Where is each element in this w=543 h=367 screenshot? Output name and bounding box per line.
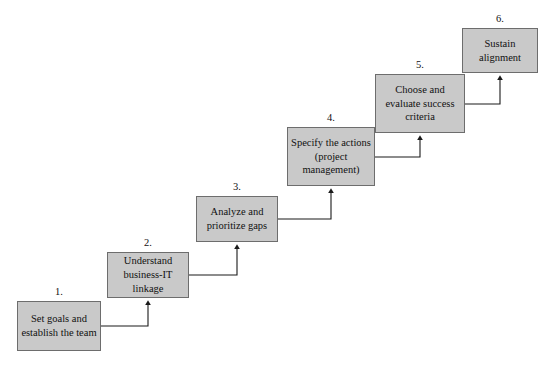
step-box-6[interactable]: Sustain alignment [462,28,538,73]
step-box-3[interactable]: Analyze and prioritize gaps [196,196,278,242]
step-number-5: 5. [375,60,465,71]
flowchart-canvas: 1. Set goals and establish the team 2. U… [0,0,543,367]
step-box-1[interactable]: Set goals and establish the team [17,301,101,351]
connector-2-to-3 [189,247,237,275]
step-number-3: 3. [196,182,278,193]
connector-1-to-2 [101,303,148,326]
connector-4-to-5 [375,138,420,157]
step-number-6: 6. [462,14,538,25]
step-number-1: 1. [17,287,101,298]
step-box-5[interactable]: Choose and evaluate success criteria [375,74,465,133]
connector-5-to-6 [465,78,500,104]
connector-3-to-4 [278,191,331,219]
step-box-2[interactable]: Understand business-IT linkage [107,252,189,298]
step-number-2: 2. [107,238,189,249]
step-box-4[interactable]: Specify the actions (project management) [287,127,375,186]
step-number-4: 4. [287,113,375,124]
